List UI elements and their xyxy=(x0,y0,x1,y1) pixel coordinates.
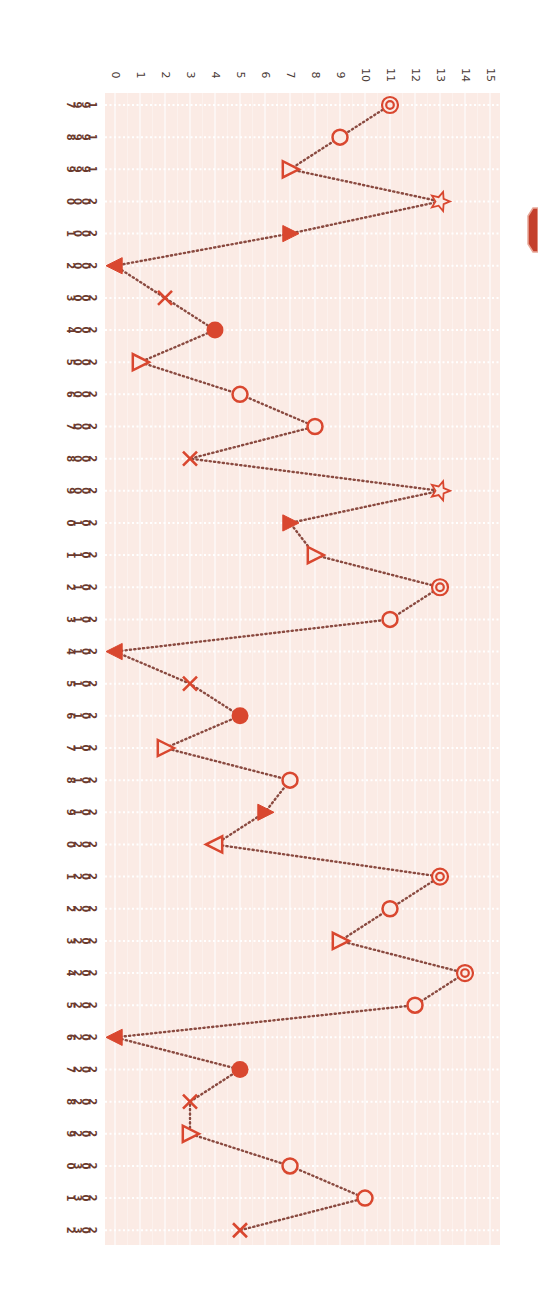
year-tick-label: 2021 xyxy=(65,873,99,880)
svg-text:0: 0 xyxy=(65,519,76,526)
value-tick-label: 7 xyxy=(284,72,297,79)
svg-text:0: 0 xyxy=(65,841,76,848)
svg-text:6: 6 xyxy=(65,391,76,398)
data-point-2025 xyxy=(408,998,423,1013)
svg-text:1: 1 xyxy=(65,873,76,880)
year-tick-label: 2013 xyxy=(65,616,99,623)
value-tick-label: 4 xyxy=(209,72,222,79)
year-tick-label: 2031 xyxy=(65,1195,99,1202)
svg-text:8: 8 xyxy=(65,455,76,462)
svg-text:6: 6 xyxy=(65,1034,76,1041)
svg-text:2: 2 xyxy=(65,1227,76,1234)
svg-text:4: 4 xyxy=(65,648,76,655)
svg-text:3: 3 xyxy=(65,616,76,623)
data-point-2031 xyxy=(358,1191,373,1206)
year-tick-label: 2015 xyxy=(65,680,99,687)
svg-text:5: 5 xyxy=(65,680,76,687)
svg-text:9: 9 xyxy=(65,166,76,173)
data-point-1998 xyxy=(333,130,348,145)
data-point-2022 xyxy=(383,901,398,916)
year-tick-label: 2026 xyxy=(65,1034,99,1041)
svg-text:2: 2 xyxy=(65,584,76,591)
year-tick-label: 2024 xyxy=(65,970,99,977)
year-tick-label: 2004 xyxy=(65,327,99,334)
svg-text:9: 9 xyxy=(65,487,76,494)
year-tick-label: 2028 xyxy=(65,1098,99,1105)
data-point-2021 xyxy=(432,869,448,885)
value-tick-label: 5 xyxy=(234,72,247,79)
year-tick-label: 2019 xyxy=(65,809,99,816)
svg-text:6: 6 xyxy=(65,712,76,719)
year-tick-label: 2001 xyxy=(65,230,99,237)
value-axis-ticks: 0123456789101112131415 xyxy=(109,68,497,82)
value-tick-label: 13 xyxy=(434,68,447,82)
data-point-2016 xyxy=(232,707,249,724)
svg-text:2: 2 xyxy=(65,905,76,912)
data-point-2007 xyxy=(308,419,323,434)
year-tick-label: 2011 xyxy=(65,552,99,559)
year-tick-label: 2012 xyxy=(65,584,99,591)
value-tick-label: 15 xyxy=(484,68,497,82)
year-tick-label: 2000 xyxy=(65,198,99,205)
value-tick-label: 9 xyxy=(334,72,347,79)
svg-text:8: 8 xyxy=(65,777,76,784)
svg-text:5: 5 xyxy=(65,1002,76,1009)
year-tick-label: 2020 xyxy=(65,841,99,848)
data-point-2018 xyxy=(283,773,298,788)
svg-text:7: 7 xyxy=(65,102,76,109)
year-tick-label: 1999 xyxy=(65,166,99,173)
value-tick-label: 11 xyxy=(384,68,397,82)
year-tick-label: 1998 xyxy=(65,134,99,141)
year-tick-label: 2022 xyxy=(65,905,99,912)
value-tick-label: 2 xyxy=(159,72,172,79)
data-point-2004 xyxy=(207,322,224,339)
svg-text:0: 0 xyxy=(65,198,76,205)
data-point-2030 xyxy=(283,1158,298,1173)
data-point-2013 xyxy=(383,612,398,627)
value-tick-label: 10 xyxy=(359,68,372,82)
svg-text:5: 5 xyxy=(65,359,76,366)
year-tick-label: 2017 xyxy=(65,745,99,752)
year-tick-label: 2030 xyxy=(65,1162,99,1169)
year-tick-label: 2029 xyxy=(65,1130,99,1137)
value-tick-label: 14 xyxy=(459,68,472,82)
svg-text:3: 3 xyxy=(65,294,76,301)
data-point-1997 xyxy=(382,97,398,113)
year-tick-label: 2005 xyxy=(65,359,99,366)
svg-text:1: 1 xyxy=(65,230,76,237)
value-tick-label: 12 xyxy=(409,68,422,82)
year-tick-label: 2032 xyxy=(65,1227,99,1234)
year-tick-label: 2025 xyxy=(65,1002,99,1009)
svg-text:0: 0 xyxy=(65,1162,76,1169)
year-tick-label: 2009 xyxy=(65,487,99,494)
data-point-2006 xyxy=(233,387,248,402)
year-tick-label: 2007 xyxy=(65,423,99,430)
svg-text:9: 9 xyxy=(65,809,76,816)
svg-text:4: 4 xyxy=(65,327,76,334)
year-tick-label: 2018 xyxy=(65,777,99,784)
svg-text:8: 8 xyxy=(65,134,76,141)
value-tick-label: 1 xyxy=(134,72,147,79)
svg-text:9: 9 xyxy=(65,1130,76,1137)
value-tick-label: 3 xyxy=(184,72,197,79)
year-tick-label: 2010 xyxy=(65,519,99,526)
year-tick-label: 1997 xyxy=(65,102,99,109)
svg-text:3: 3 xyxy=(65,937,76,944)
value-tick-label: 8 xyxy=(309,72,322,79)
svg-text:7: 7 xyxy=(65,745,76,752)
data-point-2012 xyxy=(432,579,448,595)
value-tick-label: 0 xyxy=(109,72,122,79)
year-tick-label: 2002 xyxy=(65,262,99,269)
year-tick-label: 2008 xyxy=(65,455,99,462)
year-tick-label: 2014 xyxy=(65,648,99,655)
svg-text:7: 7 xyxy=(65,423,76,430)
year-tick-label: 2003 xyxy=(65,294,99,301)
data-point-2024 xyxy=(457,965,473,981)
octagon-icon xyxy=(528,208,538,252)
year-tick-label: 2006 xyxy=(65,391,99,398)
svg-text:7: 7 xyxy=(65,1066,76,1073)
value-tick-label: 6 xyxy=(259,72,272,79)
svg-text:4: 4 xyxy=(65,970,76,977)
year-tick-label: 2016 xyxy=(65,712,99,719)
year-tick-label: 2023 xyxy=(65,937,99,944)
